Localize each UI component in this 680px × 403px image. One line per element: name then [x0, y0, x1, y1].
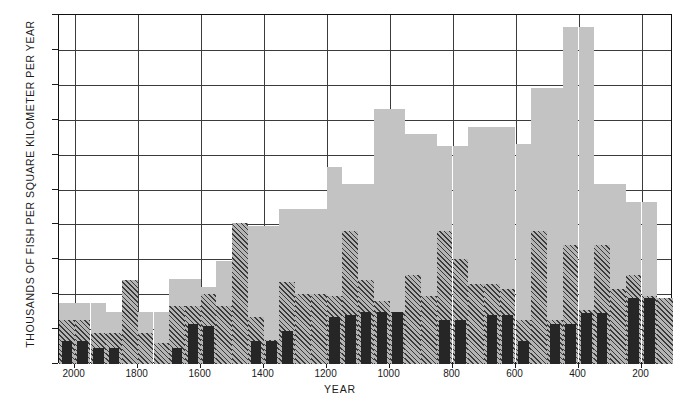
bar-lowest-1175: [329, 317, 340, 364]
bar-lowest-825: [439, 320, 450, 364]
bar-lowest-425: [565, 324, 576, 364]
bar-lowest-625: [502, 315, 513, 364]
bars-series-lowest: [59, 15, 673, 364]
x-axis-title: YEAR: [0, 383, 680, 395]
plot-area: [58, 14, 672, 363]
x-tick-label-1600: 1600: [180, 368, 220, 379]
bar-lowest-1575: [203, 326, 214, 364]
bar-lowest-1875: [109, 348, 120, 364]
x-tick-label-800: 800: [432, 368, 472, 379]
bar-lowest-1625: [188, 324, 199, 364]
y-axis-title: THOUSANDS OF FISH PER SQUARE KILOMETER P…: [24, 9, 36, 359]
bar-lowest-1925: [93, 348, 104, 364]
chart-root: THOUSANDS OF FISH PER SQUARE KILOMETER P…: [0, 0, 680, 403]
bar-lowest-775: [455, 320, 466, 364]
bar-lowest-2025: [62, 341, 73, 364]
x-tick-label-600: 600: [495, 368, 535, 379]
bar-lowest-1375: [266, 341, 277, 364]
bar-lowest-975: [392, 312, 403, 364]
x-tick-label-1800: 1800: [117, 368, 157, 379]
bar-lowest-1075: [361, 312, 372, 364]
bar-lowest-1675: [172, 348, 183, 364]
bar-lowest-675: [487, 315, 498, 364]
bar-lowest-1425: [251, 341, 262, 364]
bar-lowest-475: [550, 324, 561, 364]
x-tick-label-1000: 1000: [369, 368, 409, 379]
bar-lowest-1125: [345, 315, 356, 364]
x-tick-label-2000: 2000: [54, 368, 94, 379]
bar-lowest-1025: [377, 312, 388, 364]
x-tick-label-200: 200: [621, 368, 661, 379]
bar-lowest-375: [581, 313, 592, 364]
x-tick-label-1200: 1200: [306, 368, 346, 379]
y-tick-0: [52, 363, 58, 364]
bar-lowest-1325: [282, 331, 293, 364]
bar-lowest-575: [518, 341, 529, 364]
bar-lowest-175: [644, 298, 655, 364]
bar-lowest-325: [597, 313, 608, 364]
bar-lowest-225: [628, 298, 639, 364]
x-tick-label-400: 400: [558, 368, 598, 379]
bar-lowest-1975: [77, 341, 88, 364]
x-tick-label-1400: 1400: [243, 368, 283, 379]
